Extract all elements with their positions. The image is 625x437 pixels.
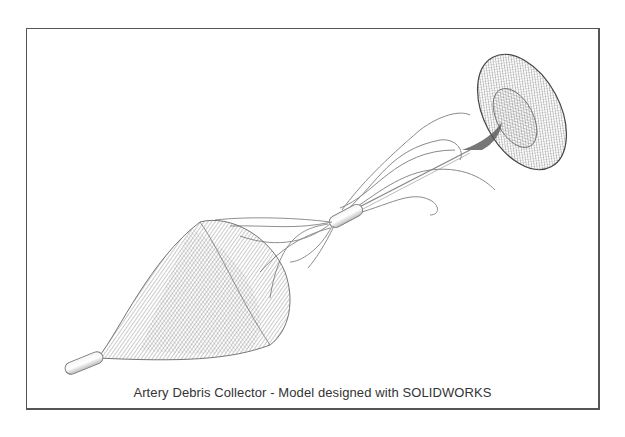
helical-struts-upper: [340, 113, 495, 216]
figure-caption: Artery Debris Collector - Model designed…: [0, 385, 625, 400]
collection-basket: [98, 220, 290, 359]
sleeve: [327, 202, 364, 229]
tip-tube: [63, 350, 105, 376]
toroidal-anchor: [459, 39, 584, 184]
artery-debris-collector-model: [0, 0, 625, 437]
